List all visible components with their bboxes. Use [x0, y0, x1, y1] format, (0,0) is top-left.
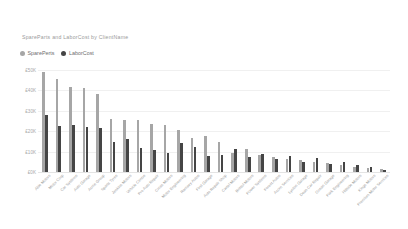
y-axis-tick-label: £10K	[25, 149, 36, 154]
bar-laborcost[interactable]	[248, 157, 251, 172]
x-axis-labels: Able MotorsMotor CorpCar SystemsAuto Gar…	[38, 173, 390, 223]
y-axis-tick-label: £30K	[25, 108, 36, 113]
bar-group[interactable]	[38, 70, 52, 172]
bar-group[interactable]	[322, 70, 336, 172]
bar-group[interactable]	[227, 70, 241, 172]
bar-laborcost[interactable]	[275, 159, 278, 172]
legend-item-laborcost[interactable]: LaborCost	[61, 50, 93, 56]
bar-laborcost[interactable]	[58, 126, 61, 172]
bar-group[interactable]	[363, 70, 377, 172]
bar-laborcost[interactable]	[113, 142, 116, 172]
bar-group[interactable]	[173, 70, 187, 172]
y-axis-tick-label: £40K	[25, 88, 36, 93]
bar-chart-card: SpareParts and LaborCost by ClientName S…	[0, 0, 408, 229]
bar-laborcost[interactable]	[234, 149, 237, 172]
bar-laborcost[interactable]	[153, 150, 156, 172]
bar-group[interactable]	[214, 70, 228, 172]
bar-series-container	[38, 70, 390, 172]
bar-laborcost[interactable]	[302, 162, 305, 172]
chart-title: SpareParts and LaborCost by ClientName	[22, 34, 128, 40]
bar-group[interactable]	[146, 70, 160, 172]
y-axis-tick-label: £0K	[28, 170, 36, 175]
bar-group[interactable]	[295, 70, 309, 172]
bar-laborcost[interactable]	[72, 125, 75, 172]
bar-group[interactable]	[241, 70, 255, 172]
y-axis: £0K£10K£20K£30K£40K£50K	[18, 70, 36, 172]
bar-group[interactable]	[160, 70, 174, 172]
bar-laborcost[interactable]	[86, 127, 89, 172]
y-axis-tick-label: £20K	[25, 129, 36, 134]
bar-group[interactable]	[255, 70, 269, 172]
legend-dot-icon	[61, 51, 66, 56]
bar-group[interactable]	[282, 70, 296, 172]
bar-group[interactable]	[336, 70, 350, 172]
bar-group[interactable]	[52, 70, 66, 172]
legend-item-spareparts[interactable]: SparePerts	[20, 50, 54, 56]
bar-laborcost[interactable]	[140, 148, 143, 172]
bar-laborcost[interactable]	[180, 143, 183, 172]
bar-laborcost[interactable]	[194, 147, 197, 173]
y-axis-tick-label: £50K	[25, 68, 36, 73]
bar-group[interactable]	[187, 70, 201, 172]
bar-group[interactable]	[79, 70, 93, 172]
bar-group[interactable]	[309, 70, 323, 172]
bar-laborcost[interactable]	[99, 128, 102, 172]
bar-laborcost[interactable]	[167, 153, 170, 172]
bar-laborcost[interactable]	[316, 158, 319, 172]
bar-laborcost[interactable]	[329, 164, 332, 172]
legend-label-spareparts: SparePerts	[28, 50, 55, 56]
bar-group[interactable]	[92, 70, 106, 172]
bar-group[interactable]	[65, 70, 79, 172]
bar-laborcost[interactable]	[221, 155, 224, 172]
bar-laborcost[interactable]	[289, 156, 292, 172]
bar-group[interactable]	[200, 70, 214, 172]
bar-laborcost[interactable]	[261, 154, 264, 172]
legend-label-laborcost: LaborCost	[69, 50, 94, 56]
bar-laborcost[interactable]	[126, 139, 129, 172]
bar-laborcost[interactable]	[356, 165, 359, 172]
bar-group[interactable]	[133, 70, 147, 172]
bar-laborcost[interactable]	[343, 162, 346, 172]
bar-laborcost[interactable]	[207, 156, 210, 172]
bar-group[interactable]	[106, 70, 120, 172]
bar-group[interactable]	[119, 70, 133, 172]
bar-group[interactable]	[268, 70, 282, 172]
bar-group[interactable]	[376, 70, 390, 172]
bar-group[interactable]	[349, 70, 363, 172]
bar-laborcost[interactable]	[45, 115, 48, 172]
chart-legend: SparePerts LaborCost	[20, 50, 94, 56]
legend-dot-icon	[20, 51, 25, 56]
plot-area	[38, 70, 390, 172]
